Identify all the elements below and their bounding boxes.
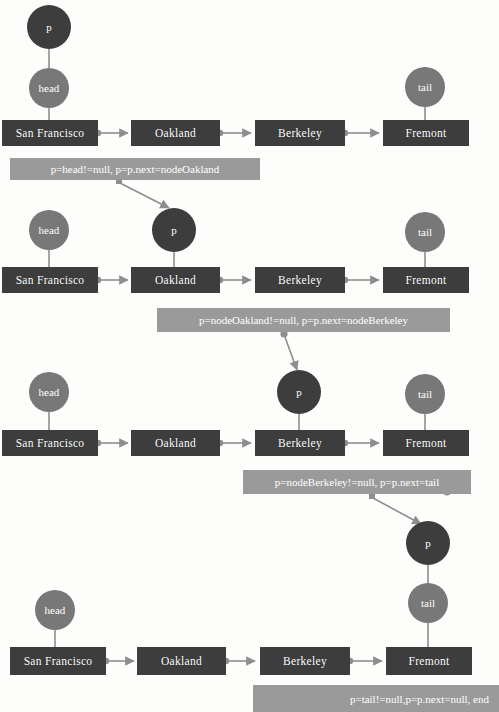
annotation-connector-1 (116, 178, 169, 208)
node-san-francisco-step2[interactable]: San Francisco (2, 267, 98, 293)
pointer-p-circle-step1[interactable]: p (27, 5, 71, 49)
annotation-connector-2 (280, 330, 297, 370)
pointer-head-label: head (45, 604, 66, 616)
pointer-p-label: p (46, 21, 52, 33)
node-fremont-step1[interactable]: Fremont (383, 120, 469, 146)
annotation-connector-3 (369, 493, 421, 524)
pointer-head-circle-step1[interactable]: head (29, 68, 69, 108)
pointer-p-label: p (171, 224, 177, 236)
pointer-head-circle-step4[interactable]: head (35, 590, 75, 630)
node-berkeley-step4[interactable]: Berkeley (260, 647, 350, 675)
node-fremont-step2[interactable]: Fremont (383, 267, 469, 293)
pointer-tail-circle-step4[interactable]: tail (408, 583, 448, 623)
pointer-p-circle-step2[interactable]: p (152, 208, 196, 252)
node-berkeley-step1[interactable]: Berkeley (255, 120, 345, 146)
node-berkeley-step2[interactable]: Berkeley (255, 267, 345, 293)
node-berkeley-step3[interactable]: Berkeley (255, 430, 345, 456)
pointer-p-label: p (296, 386, 302, 398)
node-san-francisco-step1[interactable]: San Francisco (2, 120, 98, 146)
annotation-step-4: p=tail!=null,p=p.next=null, end (253, 685, 499, 712)
pointer-tail-label: tail (421, 597, 435, 609)
pointer-p-label: p (425, 537, 431, 549)
pointer-tail-circle-step3[interactable]: tail (405, 374, 445, 414)
pointer-tail-label: tail (418, 226, 432, 238)
pointer-head-label: head (39, 224, 60, 236)
pointer-head-circle-step2[interactable]: head (29, 210, 69, 250)
node-oakland-step4[interactable]: Oakland (137, 647, 226, 675)
node-oakland-step1[interactable]: Oakland (131, 120, 220, 146)
pointer-head-label: head (39, 386, 60, 398)
pointer-tail-circle-step1[interactable]: tail (405, 67, 445, 107)
pointer-tail-label: tail (418, 81, 432, 93)
pointer-p-circle-step3[interactable]: p (277, 370, 321, 414)
annotation-step-1: p=head!=null, p=p.next=nodeOakland (10, 158, 260, 180)
pointer-tail-label: tail (418, 388, 432, 400)
pointer-head-circle-step3[interactable]: head (29, 372, 69, 412)
node-oakland-step3[interactable]: Oakland (131, 430, 220, 456)
node-san-francisco-step4[interactable]: San Francisco (10, 647, 106, 675)
pointer-head-label: head (39, 82, 60, 94)
pointer-tail-circle-step2[interactable]: tail (405, 212, 445, 252)
node-fremont-step4[interactable]: Fremont (386, 647, 472, 675)
pointer-p-circle-step4[interactable]: p (406, 521, 450, 565)
node-oakland-step2[interactable]: Oakland (131, 267, 220, 293)
pointer-stems (49, 49, 428, 647)
annotation-step-2: p=nodeOakland!=null, p=p.next=nodeBerkel… (157, 308, 450, 332)
node-san-francisco-step3[interactable]: San Francisco (2, 430, 98, 456)
annotation-step-3: p=nodeBerkeley!=null, p=p.next=tail (243, 470, 471, 494)
linked-list-trace-diagram: p head tail San Francisco Oakland Berkel… (0, 0, 499, 712)
node-fremont-step3[interactable]: Fremont (383, 430, 469, 456)
